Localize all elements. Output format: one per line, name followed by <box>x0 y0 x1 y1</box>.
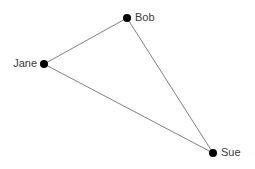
node-jane[interactable] <box>40 60 48 68</box>
node-label-sue: Sue <box>221 147 241 158</box>
node-layer <box>40 14 217 157</box>
graph-canvas: Bob Jane Sue <box>0 0 255 169</box>
graph-svg <box>0 0 255 169</box>
node-label-bob: Bob <box>135 12 155 23</box>
edge-layer <box>44 18 213 153</box>
edge-bob-sue[interactable] <box>127 18 213 153</box>
edge-jane-sue[interactable] <box>44 64 213 153</box>
edge-jane-bob[interactable] <box>44 18 127 64</box>
node-label-jane: Jane <box>10 58 37 69</box>
node-bob[interactable] <box>123 14 131 22</box>
node-sue[interactable] <box>209 149 217 157</box>
